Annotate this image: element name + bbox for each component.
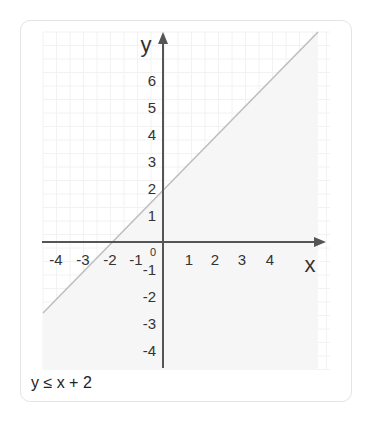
y-tick-label: -1 <box>143 261 156 278</box>
y-tick-label: -3 <box>143 315 156 332</box>
x-tick-label: 1 <box>185 251 193 268</box>
y-axis-title: y <box>141 32 152 57</box>
x-axis-title: x <box>305 252 316 277</box>
y-tick-label: 2 <box>148 180 156 197</box>
inequality-graph: -4-3-2-11234654321-1-2-3-40xy <box>0 0 373 423</box>
y-tick-label: 6 <box>148 72 156 89</box>
x-tick-label: -1 <box>129 251 142 268</box>
y-tick-label: 4 <box>148 126 156 143</box>
origin-label: 0 <box>150 246 156 258</box>
y-tick-label: -4 <box>143 342 156 359</box>
y-axis-arrow-icon <box>158 32 168 44</box>
x-tick-label: -2 <box>103 251 116 268</box>
inequality-caption: y ≤ x + 2 <box>31 374 92 392</box>
x-tick-label: 2 <box>211 251 219 268</box>
y-tick-label: -2 <box>143 288 156 305</box>
x-tick-label: -4 <box>49 251 62 268</box>
x-tick-label: 3 <box>238 251 246 268</box>
x-tick-label: 4 <box>266 251 274 268</box>
x-tick-label: -3 <box>76 251 89 268</box>
y-tick-label: 3 <box>148 153 156 170</box>
shaded-region <box>43 32 318 370</box>
y-tick-label: 1 <box>148 207 156 224</box>
x-axis-arrow-icon <box>314 237 326 247</box>
y-tick-label: 5 <box>148 99 156 116</box>
